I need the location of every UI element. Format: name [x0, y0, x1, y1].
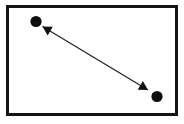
figure-background: [0, 0, 184, 124]
node-upper-left: [30, 16, 41, 27]
figure-container: [0, 0, 184, 124]
diagram-canvas: [0, 0, 184, 124]
node-lower-right: [151, 91, 162, 102]
